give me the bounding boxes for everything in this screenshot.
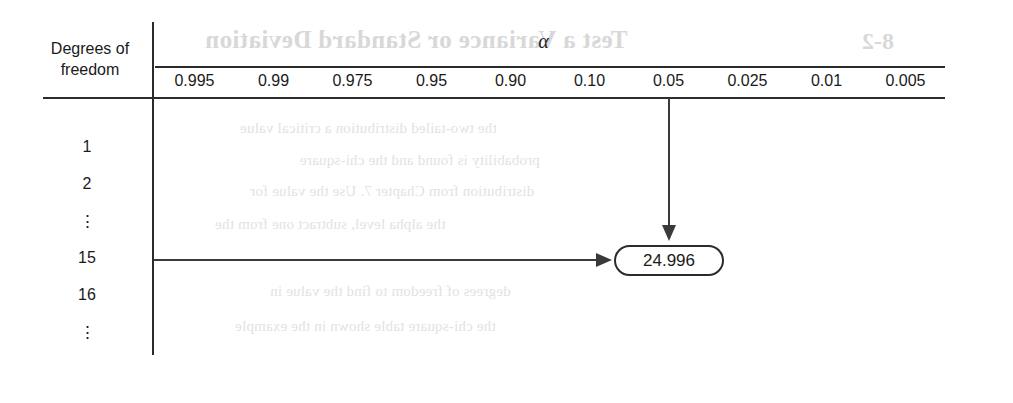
chi-square-table-figure: Test a Variance or Standard Deviation 8-… <box>0 0 1013 403</box>
degrees-of-freedom-header-line-2: freedom <box>32 59 148 80</box>
column-header-1: 0.99 <box>234 72 313 90</box>
header-top-rule <box>155 66 945 68</box>
column-annotation-arrow-shaft <box>668 98 670 229</box>
row-label-ellipsis-bottom: ⋮ <box>32 322 142 343</box>
column-header-3: 0.95 <box>392 72 471 90</box>
row-label-2: 2 <box>32 175 142 193</box>
row-label-1: 1 <box>32 138 142 156</box>
column-header-8: 0.01 <box>787 72 866 90</box>
alpha-symbol-glyph: α <box>538 30 549 52</box>
row-label-ellipsis-top: ⋮ <box>32 211 142 232</box>
bleed-through-line-3: distribution from Chapter 7. Use the val… <box>250 183 534 200</box>
bleed-through-line-1: the two-tailed distribution a critical v… <box>240 120 497 137</box>
column-header-0: 0.995 <box>155 72 234 90</box>
degrees-of-freedom-header: Degrees of freedom <box>32 38 148 80</box>
row-annotation-arrow-head <box>596 253 612 267</box>
column-annotation-arrow-head <box>662 225 676 241</box>
bleed-through-line-2: probability is found and the chi-square <box>300 152 540 169</box>
column-header-2: 0.975 <box>313 72 392 90</box>
column-header-7: 0.025 <box>708 72 787 90</box>
bleed-through-line-5: degrees of freedom to find the value in <box>270 283 511 300</box>
critical-value-callout: 24.996 <box>614 245 724 276</box>
bleed-through-line-6: the chi-square table shown in the exampl… <box>235 318 496 335</box>
column-header-4: 0.90 <box>471 72 550 90</box>
degrees-of-freedom-header-line-1: Degrees of <box>32 38 148 59</box>
row-label-16: 16 <box>32 286 142 304</box>
stub-column-divider <box>152 22 154 355</box>
header-bottom-rule <box>43 97 945 99</box>
row-annotation-arrow-shaft <box>154 259 602 261</box>
bleed-through-line-4: the alpha level, subtract one from the <box>215 216 445 233</box>
critical-value-text: 24.996 <box>643 251 695 271</box>
column-header-6: 0.05 <box>629 72 708 90</box>
column-header-5: 0.10 <box>550 72 629 90</box>
column-header-9: 0.005 <box>866 72 945 90</box>
row-label-15: 15 <box>32 249 142 267</box>
